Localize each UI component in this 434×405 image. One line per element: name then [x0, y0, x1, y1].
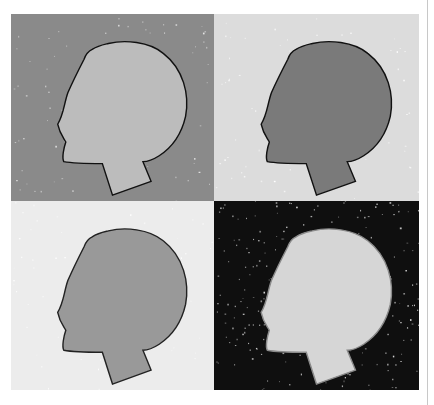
head-silhouette-icon	[11, 14, 214, 201]
panel-bottom-left	[11, 201, 214, 390]
head-silhouette-icon	[214, 14, 419, 201]
panel-bottom-right	[214, 201, 419, 390]
edge-divider	[427, 0, 428, 405]
panel-top-left	[11, 14, 214, 201]
artwork-grid	[11, 14, 419, 390]
panel-top-right	[214, 14, 419, 201]
head-silhouette-icon	[214, 201, 419, 390]
head-silhouette-icon	[11, 201, 214, 390]
